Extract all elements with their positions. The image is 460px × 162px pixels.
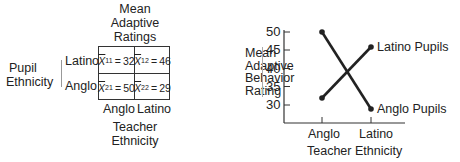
y-tick-50: 50 bbox=[266, 25, 280, 39]
y-tick-45: 45 bbox=[266, 43, 280, 57]
y-ticks bbox=[284, 32, 290, 105]
point-latino-anglo bbox=[319, 95, 325, 101]
legend-anglo-pupils: Anglo Pupils bbox=[377, 102, 447, 116]
series-anglo-pupils bbox=[322, 32, 371, 109]
x-axis-label: Teacher Ethnicity bbox=[307, 144, 402, 158]
legend-latino-pupils: Latino Pupils bbox=[377, 40, 449, 54]
point-anglo-latino bbox=[368, 106, 374, 112]
x-tick-label-anglo: Anglo bbox=[308, 127, 340, 141]
y-tick-30: 30 bbox=[266, 98, 280, 112]
x-tick-label-latino: Latino bbox=[359, 127, 393, 141]
y-tick-35: 35 bbox=[266, 80, 280, 94]
y-tick-40: 40 bbox=[266, 62, 280, 76]
point-latino-latino bbox=[368, 44, 374, 50]
point-anglo-anglo bbox=[319, 29, 325, 35]
